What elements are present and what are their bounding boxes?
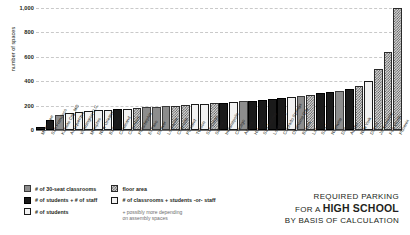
bar-slot (355, 8, 364, 130)
y-tick-label: 200 (0, 103, 34, 109)
x-label-slot: Seattle (210, 132, 219, 180)
x-label-slot: Detroit (364, 132, 373, 180)
x-label-slot: Albuquerque (65, 132, 74, 180)
title-line-2: FOR A HIGH SCHOOL (223, 202, 399, 215)
x-label-slot: New Orleans (94, 132, 103, 180)
x-label-slot: Atlanta (239, 132, 248, 180)
bar-slot (248, 8, 257, 130)
x-label-slot: Washington D.C. (75, 132, 84, 180)
x-label-slot: Oklahoma City (287, 132, 296, 180)
x-label-slot: Austin (345, 132, 354, 180)
x-label-slot: Houston (248, 132, 257, 180)
legend-swatch (24, 185, 31, 192)
legend-label: # of 30-seat classrooms (35, 186, 96, 192)
bar-slot (258, 8, 267, 130)
legend-footnote: + possibly more dependingon assembly spa… (122, 209, 215, 222)
bar-slot (364, 8, 373, 130)
legend-label: floor area (122, 186, 147, 192)
x-label-slot: Colorado Springs (277, 132, 286, 180)
bar-slot (133, 8, 142, 130)
x-label-slot: Baltimore (104, 132, 113, 180)
legend-swatch (111, 185, 118, 192)
bar-slot (181, 8, 190, 130)
x-label-slot: Long Beach (268, 132, 277, 180)
y-axis-title: number of spaces (10, 14, 16, 84)
x-label-slot: Dallas (335, 132, 344, 180)
bar-slot (345, 8, 354, 130)
x-axis-labels: MilwaukeeSan FranciscoKansas City, MOAlb… (36, 132, 402, 180)
x-label-slot: Charlotte (171, 132, 180, 180)
x-label-slot: Portland (181, 132, 190, 180)
bar-slot (219, 8, 228, 130)
x-label-slot: Tucson (191, 132, 200, 180)
y-axis-ticks: 02004006008001,000 (0, 8, 34, 130)
bar-slot (191, 8, 200, 130)
title-line-2-bold: HIGH SCHOOL (323, 202, 399, 214)
bar-slot (326, 8, 335, 130)
x-label-slot: San Antonio (258, 132, 267, 180)
x-label-slot: Cleveland (113, 132, 122, 180)
legend-item: # of 30-seat classrooms (24, 185, 97, 192)
title-line-3: BY BASIS OF CALCULATION (223, 216, 399, 226)
x-label-slot: San Francisco (46, 132, 55, 180)
x-label-slot: Chicago (229, 132, 238, 180)
legend-item: # of students + # of staff (24, 197, 97, 204)
x-label-slot: El Paso (142, 132, 151, 180)
bar-slot (171, 8, 180, 130)
bar-slot (152, 8, 161, 130)
bar-slot (239, 8, 248, 130)
bar-slot (335, 8, 344, 130)
bar-slot (162, 8, 171, 130)
title-line-2-prefix: FOR A (295, 205, 323, 214)
legend-footnote-line-2: on assembly spaces (122, 215, 215, 221)
y-tick-label: 800 (0, 29, 34, 35)
bar-slot (210, 8, 219, 130)
title-line-1: REQUIRED PARKING (223, 192, 399, 202)
x-label-slot: Milwaukee (36, 132, 45, 180)
x-label-slot: Columbus (123, 132, 132, 180)
legend-item: floor area (111, 185, 215, 192)
title-block: REQUIRED PARKING FOR A HIGH SCHOOL BY BA… (223, 192, 399, 226)
legend-swatch (111, 197, 118, 204)
x-label-slot: Las Vegas (306, 132, 315, 180)
y-tick-label: 600 (0, 54, 34, 60)
x-label-slot: San Jose (316, 132, 325, 180)
x-label-slot: Jacksonville (374, 132, 383, 180)
x-label-slot: Nashville (326, 132, 335, 180)
x-label-slot: Philadelphia (133, 132, 142, 180)
bar-slot (316, 8, 325, 130)
legend-label: # of classrooms + students -or- staff (122, 197, 215, 203)
legend-column: # of 30-seat classrooms# of students + #… (24, 185, 97, 222)
x-label-slot: Phoenix (393, 132, 402, 180)
legend-item: # of classrooms + students -or- staff (111, 197, 215, 204)
y-tick-label: 0 (0, 127, 34, 133)
x-label-slot: San Diego (200, 132, 209, 180)
chart-legend: # of 30-seat classrooms# of students + #… (24, 185, 239, 222)
x-label-slot: Memphis (84, 132, 93, 180)
legend-swatch (24, 197, 31, 204)
legend-label: # of students + # of staff (35, 197, 97, 203)
x-label-slot: Kansas City, MO (55, 132, 64, 180)
y-tick-label: 400 (0, 78, 34, 84)
legend-column: floor area# of classrooms + students -or… (111, 185, 215, 222)
legend-swatch (24, 208, 31, 215)
x-label-slot: Indianapolis (219, 132, 228, 180)
bar-slot (374, 8, 383, 130)
bar-slot (393, 8, 402, 130)
y-tick-label: 1,000 (0, 5, 34, 11)
bar-slot (123, 8, 132, 130)
x-label-slot: Denver (152, 132, 161, 180)
x-label-slot: Boston (297, 132, 306, 180)
legend-item: # of students (24, 208, 97, 215)
bar (393, 8, 402, 130)
x-label-slot: New York (355, 132, 364, 180)
bar-slot (200, 8, 209, 130)
x-label-slot: Louisville (162, 132, 171, 180)
legend-label: # of students (35, 209, 69, 215)
bar-slot (36, 8, 45, 130)
x-label-slot: Fort Worth (384, 132, 393, 180)
bar-slot (46, 8, 55, 130)
